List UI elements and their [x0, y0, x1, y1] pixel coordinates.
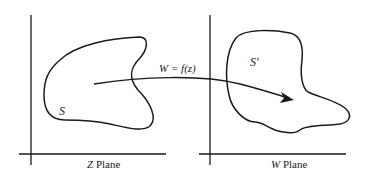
z-plane-variable: Z — [87, 158, 93, 170]
region-s-prime-outline — [227, 31, 350, 133]
region-s-prime-label: S′ — [250, 55, 259, 70]
z-plane-label: Z Plane — [87, 158, 120, 170]
w-plane-axes — [199, 15, 346, 165]
complex-mapping-diagram: S W = f(z) S′ Z Plane W Plane — [0, 0, 369, 184]
w-plane-word: Plane — [283, 158, 307, 170]
w-plane-label: W Plane — [271, 158, 307, 170]
mapping-function-label: W = f(z) — [159, 62, 196, 74]
diagram-graphics — [0, 0, 369, 184]
z-plane-word: Plane — [96, 158, 120, 170]
w-plane-variable: W — [271, 158, 280, 170]
region-s-label: S — [59, 104, 65, 119]
arrowhead-icon — [280, 92, 294, 103]
mapping-arrow — [94, 78, 288, 98]
